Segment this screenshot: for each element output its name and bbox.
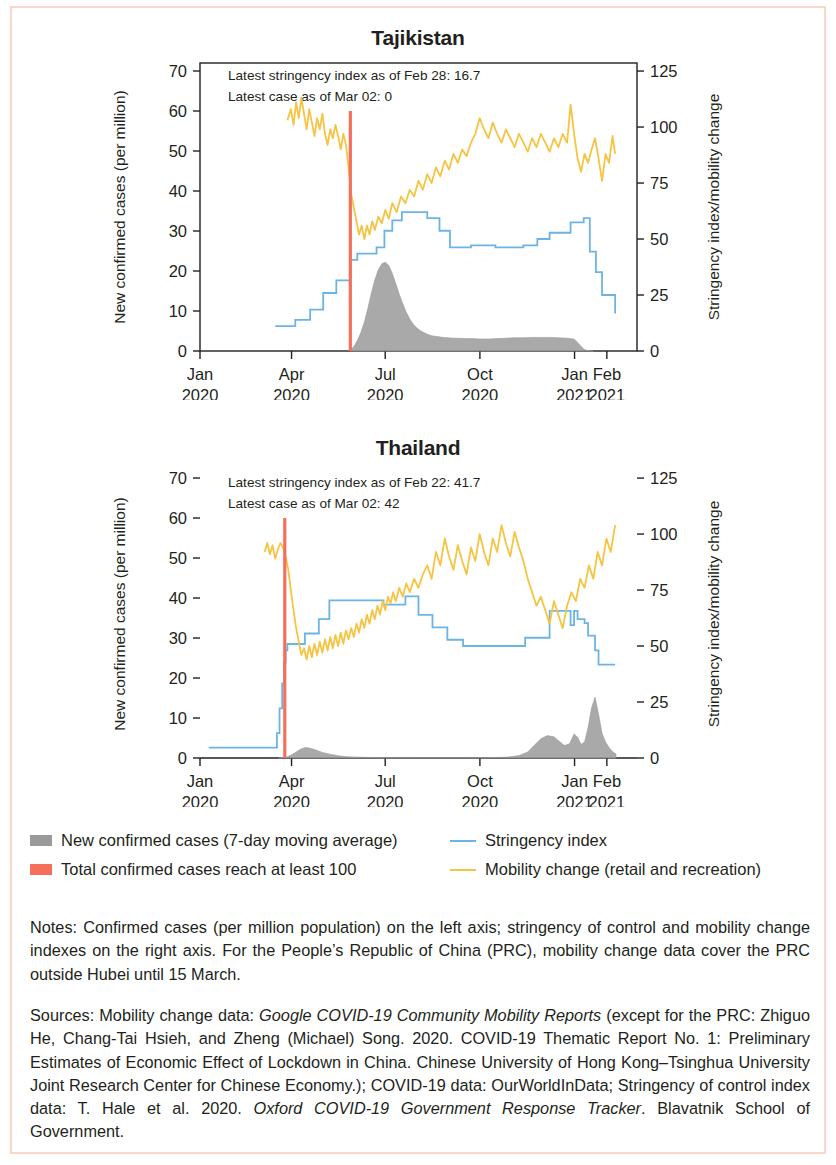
y-tick-label-right: 75: [650, 174, 668, 192]
series-area-new-cases: [279, 697, 616, 758]
legend-label-mobility: Mobility change (retail and recreation): [485, 860, 761, 879]
y-axis-title-right: Stringency index/mobility change: [705, 94, 722, 321]
y-tick-label-right: 100: [650, 525, 678, 543]
x-tick-label-year: 2020: [462, 386, 499, 400]
y-tick-label-left: 60: [169, 102, 187, 120]
x-tick-label-year: 2020: [182, 793, 219, 807]
legend-swatch-mobility: [450, 869, 476, 871]
x-tick-label-month: Feb: [593, 365, 621, 383]
series-line-stringency: [209, 596, 615, 747]
y-tick-label-left: 20: [169, 262, 187, 280]
y-tick-label-left: 50: [169, 142, 187, 160]
notes-paragraph: Notes: Confirmed cases (per million popu…: [30, 916, 810, 985]
x-tick-label-year: 2021: [588, 386, 625, 400]
x-tick-label-year: 2020: [462, 793, 499, 807]
series-line-mobility: [287, 98, 615, 239]
x-tick-label-year: 2020: [367, 386, 404, 400]
y-tick-label-left: 10: [169, 709, 187, 727]
sources-paragraph: Sources: Mobility change data: Google CO…: [30, 1004, 810, 1143]
x-tick-label-month: Jul: [375, 772, 396, 790]
notes-text: Confirmed cases (per million population)…: [30, 918, 810, 982]
chart-annotation: Latest stringency index as of Feb 22: 41…: [228, 475, 480, 490]
x-tick-label-year: 2020: [367, 793, 404, 807]
y-tick-label-left: 50: [169, 549, 187, 567]
panel-title-thailand: Thailand: [0, 436, 836, 460]
sources-label: Sources:: [30, 1006, 94, 1024]
x-tick-label-month: Jan: [561, 365, 588, 383]
x-tick-label-month: Oct: [467, 365, 493, 383]
legend-swatch-stringency: [450, 840, 476, 842]
legend-label-stringency: Stringency index: [485, 831, 607, 850]
y-tick-label-left: 0: [178, 749, 187, 767]
x-tick-label-month: Feb: [593, 772, 621, 790]
y-axis-title-left: New confirmed cases (per million): [111, 90, 128, 323]
x-tick-label-month: Jan: [561, 772, 588, 790]
legend-item-threshold: Total confirmed cases reach at least 100: [30, 860, 450, 879]
y-tick-label-left: 70: [169, 469, 187, 487]
legend-item-new-cases: New confirmed cases (7-day moving averag…: [30, 831, 450, 850]
y-tick-label-left: 60: [169, 509, 187, 527]
x-tick-label-month: Apr: [279, 365, 305, 383]
y-tick-label-right: 75: [650, 581, 668, 599]
chart-annotation: Latest case as of Mar 02: 42: [228, 496, 400, 511]
y-tick-label-right: 0: [650, 342, 659, 360]
y-tick-label-right: 25: [650, 693, 668, 711]
legend-row-1: New confirmed cases (7-day moving averag…: [30, 826, 820, 855]
y-tick-label-right: 25: [650, 286, 668, 304]
legend-swatch-threshold: [30, 864, 52, 875]
y-tick-label-left: 40: [169, 182, 187, 200]
x-tick-label-month: Oct: [467, 772, 493, 790]
sources-italic-google: Google COVID-19 Community Mobility Repor…: [259, 1006, 601, 1024]
y-tick-label-left: 70: [169, 62, 187, 80]
y-tick-label-right: 100: [650, 118, 678, 136]
legend-label-new-cases: New confirmed cases (7-day moving averag…: [61, 831, 398, 850]
chart-annotation: Latest case as of Mar 02: 0: [228, 89, 392, 104]
y-tick-label-left: 40: [169, 589, 187, 607]
y-tick-label-right: 0: [650, 749, 659, 767]
legend-label-threshold: Total confirmed cases reach at least 100: [61, 860, 356, 879]
legend-swatch-new-cases: [30, 835, 52, 846]
series-area-new-cases: [350, 262, 593, 351]
sources-part1: Mobility change data:: [94, 1006, 259, 1024]
series-line-mobility: [265, 525, 615, 659]
y-tick-label-right: 50: [650, 637, 668, 655]
x-tick-label-year: 2021: [556, 793, 593, 807]
x-tick-label-year: 2021: [588, 793, 625, 807]
y-tick-label-left: 30: [169, 629, 187, 647]
chart-tajikistan: 0102030405060700255075100125Jan2020Apr20…: [0, 55, 836, 400]
y-axis-title-left: New confirmed cases (per million): [111, 497, 128, 730]
chart-thailand: 0102030405060700255075100125Jan2020Apr20…: [0, 462, 836, 807]
panel-title-tajikistan: Tajikistan: [0, 26, 836, 50]
y-tick-label-left: 0: [178, 342, 187, 360]
y-axis-title-right: Stringency index/mobility change: [705, 501, 722, 728]
x-tick-label-month: Jan: [187, 365, 214, 383]
figure-container: Tajikistan 0102030405060700255075100125J…: [0, 0, 836, 1165]
y-tick-label-right: 50: [650, 230, 668, 248]
y-tick-label-right: 125: [650, 469, 678, 487]
x-tick-label-year: 2020: [273, 793, 310, 807]
y-tick-label-left: 30: [169, 222, 187, 240]
y-tick-label-left: 20: [169, 669, 187, 687]
series-line-stringency: [275, 212, 615, 326]
legend-item-mobility: Mobility change (retail and recreation): [450, 860, 761, 879]
x-tick-label-month: Apr: [279, 772, 305, 790]
x-tick-label-month: Jan: [187, 772, 214, 790]
chart-annotation: Latest stringency index as of Feb 28: 16…: [228, 68, 480, 83]
x-tick-label-year: 2021: [556, 386, 593, 400]
x-tick-label-year: 2020: [273, 386, 310, 400]
chart-legend: New confirmed cases (7-day moving averag…: [30, 826, 820, 884]
y-tick-label-right: 125: [650, 62, 678, 80]
sources-italic-oxford: Oxford COVID-19 Government Response Trac…: [254, 1099, 641, 1117]
y-tick-label-left: 10: [169, 302, 187, 320]
legend-item-stringency: Stringency index: [450, 831, 607, 850]
legend-row-2: Total confirmed cases reach at least 100…: [30, 855, 820, 884]
x-tick-label-month: Jul: [375, 365, 396, 383]
notes-label: Notes:: [30, 918, 77, 936]
x-tick-label-year: 2020: [182, 386, 219, 400]
